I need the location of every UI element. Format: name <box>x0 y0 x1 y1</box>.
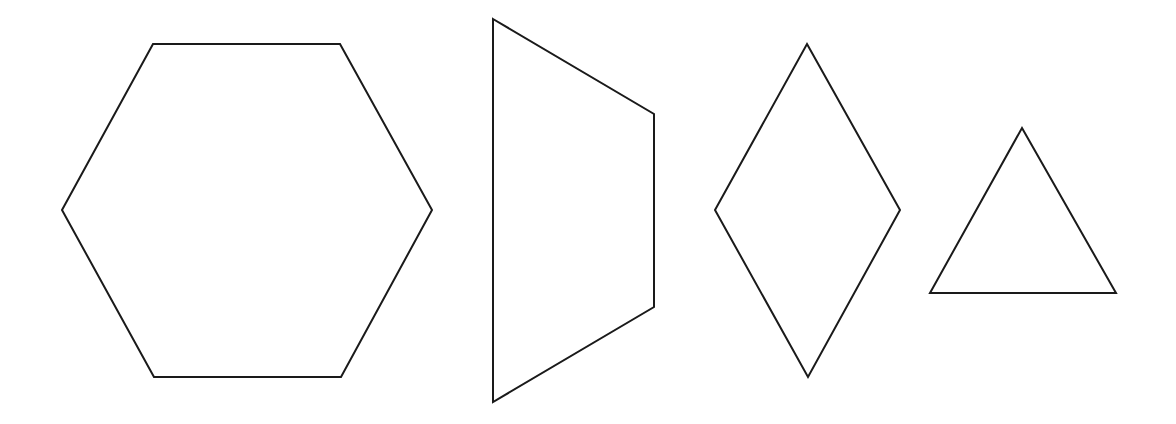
trapezoid-shape <box>493 19 654 402</box>
triangle-shape <box>930 128 1116 293</box>
diagram-canvas <box>0 0 1176 424</box>
rhombus-shape <box>715 44 900 377</box>
hexagon-shape <box>62 44 432 377</box>
shapes-svg <box>0 0 1176 424</box>
